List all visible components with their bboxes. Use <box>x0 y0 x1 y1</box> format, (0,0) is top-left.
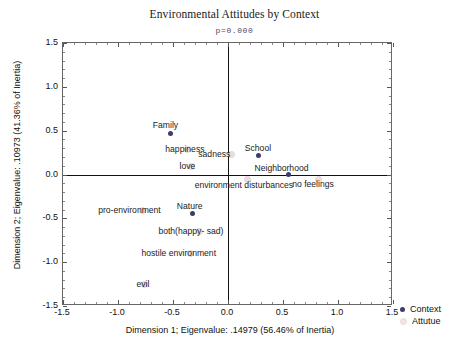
y-minor-tick <box>63 148 65 149</box>
y-minor-tick <box>63 192 65 193</box>
y-minor-tick <box>63 227 65 228</box>
x-minor-tick <box>184 43 185 45</box>
chart-root: Environmental Attitudes by Context p=0.0… <box>0 0 469 357</box>
y-minor-tick <box>63 166 65 167</box>
y-minor-tick <box>63 297 65 298</box>
y-minor-tick <box>63 236 65 237</box>
x-minor-tick <box>360 302 361 304</box>
y-tick-label: 1.0 <box>45 81 58 91</box>
y-tick-label: -1.0 <box>42 256 58 266</box>
x-minor-tick <box>305 43 306 45</box>
x-minor-tick <box>195 43 196 45</box>
y-axis-title: Dimension 2; Eigenvalue: .10973 (41.36% … <box>12 30 22 300</box>
y-minor-tick <box>63 183 65 184</box>
x-minor-tick <box>382 302 383 304</box>
point-label: Family <box>153 121 178 130</box>
x-minor-tick <box>184 302 185 304</box>
x-major-tick <box>63 300 64 304</box>
x-axis-title: Dimension 1; Eigenvalue: .14979 (56.46% … <box>40 325 420 335</box>
legend-label: Context <box>410 304 441 314</box>
x-major-tick <box>338 43 339 47</box>
y-tick-label: 1.5 <box>45 37 58 47</box>
y-minor-tick <box>389 113 391 114</box>
y-minor-tick <box>389 245 391 246</box>
y-major-tick <box>63 43 67 44</box>
x-minor-tick <box>316 302 317 304</box>
x-minor-tick <box>250 43 251 45</box>
point-label: hostile environment <box>142 249 217 258</box>
context-point <box>256 153 261 158</box>
x-major-tick <box>393 43 394 47</box>
x-major-tick <box>338 300 339 304</box>
y-minor-tick <box>63 122 65 123</box>
y-minor-tick <box>63 271 65 272</box>
x-minor-tick <box>239 43 240 45</box>
y-minor-tick <box>389 253 391 254</box>
y-minor-tick <box>63 245 65 246</box>
point-label: love <box>180 162 196 171</box>
point-label: evil <box>136 280 149 289</box>
x-minor-tick <box>129 43 130 45</box>
y-minor-tick <box>63 280 65 281</box>
x-minor-tick <box>85 43 86 45</box>
y-minor-tick <box>63 139 65 140</box>
y-minor-tick <box>389 210 391 211</box>
x-minor-tick <box>349 43 350 45</box>
x-minor-tick <box>239 302 240 304</box>
point-label: both(happy- sad) <box>158 227 223 236</box>
chart-legend: ContextAttutue <box>400 303 441 327</box>
x-tick-label: -0.5 <box>164 307 180 317</box>
x-minor-tick <box>129 302 130 304</box>
x-minor-tick <box>261 302 262 304</box>
y-tick-label: -0.5 <box>42 212 58 222</box>
x-tick-label: 1.0 <box>331 307 344 317</box>
point-label: sadness <box>198 150 230 159</box>
x-major-tick <box>393 300 394 304</box>
x-minor-tick <box>195 302 196 304</box>
x-tick-label: 1.5 <box>386 307 399 317</box>
y-minor-tick <box>389 148 391 149</box>
y-minor-tick <box>389 227 391 228</box>
y-major-tick <box>387 262 391 263</box>
y-minor-tick <box>63 157 65 158</box>
x-minor-tick <box>382 43 383 45</box>
x-minor-tick <box>250 302 251 304</box>
x-major-tick <box>173 43 174 47</box>
y-major-tick <box>387 218 391 219</box>
x-minor-tick <box>96 43 97 45</box>
legend-item[interactable]: Context <box>400 303 441 315</box>
x-tick-label: -1.0 <box>109 307 125 317</box>
y-minor-tick <box>389 78 391 79</box>
chart-subtitle-pvalue: p=0.000 <box>0 26 469 35</box>
x-minor-tick <box>261 43 262 45</box>
context-point <box>190 211 195 216</box>
x-major-tick <box>173 300 174 304</box>
x-minor-tick <box>371 302 372 304</box>
x-major-tick <box>118 300 119 304</box>
legend-marker-icon <box>400 307 405 312</box>
y-minor-tick <box>389 157 391 158</box>
y-minor-tick <box>389 271 391 272</box>
y-major-tick <box>63 87 67 88</box>
y-minor-tick <box>389 61 391 62</box>
y-minor-tick <box>63 113 65 114</box>
y-minor-tick <box>389 104 391 105</box>
legend-item[interactable]: Attutue <box>400 315 441 327</box>
x-minor-tick <box>140 43 141 45</box>
y-minor-tick <box>63 104 65 105</box>
y-minor-tick <box>389 166 391 167</box>
x-minor-tick <box>140 302 141 304</box>
x-minor-tick <box>272 43 273 45</box>
x-minor-tick <box>217 302 218 304</box>
x-minor-tick <box>327 43 328 45</box>
y-tick-label: 0.5 <box>45 125 58 135</box>
x-minor-tick <box>206 43 207 45</box>
y-minor-tick <box>389 52 391 53</box>
y-major-tick <box>63 175 67 176</box>
y-minor-tick <box>63 61 65 62</box>
y-major-tick <box>387 87 391 88</box>
context-point <box>168 131 173 136</box>
x-major-tick <box>283 300 284 304</box>
y-minor-tick <box>63 52 65 53</box>
x-minor-tick <box>107 302 108 304</box>
